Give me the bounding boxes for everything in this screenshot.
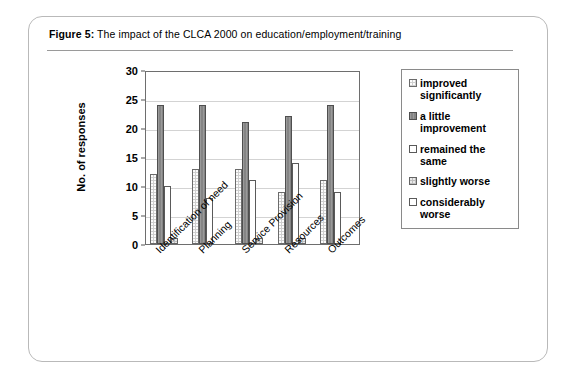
y-tick-label: 25 [126, 95, 138, 106]
x-axis-category-labels: Identification of needPlanningService Pr… [145, 247, 360, 337]
bar [150, 174, 157, 244]
y-tick-label: 15 [126, 153, 138, 164]
y-tick-mark [141, 216, 145, 217]
legend-item: improved significantly [409, 77, 512, 102]
legend-swatch-icon [409, 145, 417, 153]
y-tick-mark [141, 245, 145, 246]
legend-label: a little improvement [420, 110, 512, 135]
bar [235, 169, 242, 244]
y-tick-label: 5 [132, 211, 138, 222]
legend-item: slightly worse [409, 175, 512, 187]
caption-divider [47, 50, 513, 51]
y-tick-mark [141, 187, 145, 188]
legend-label: slightly worse [420, 175, 490, 187]
legend-item: considerably worse [409, 196, 512, 221]
bar-groups [146, 72, 359, 244]
legend-item: a little improvement [409, 110, 512, 135]
legend-swatch-icon [409, 177, 417, 185]
y-tick-label: 10 [126, 182, 138, 193]
bar-chart: No. of responses 051015202530 Identifica… [29, 55, 549, 355]
bar [327, 105, 334, 244]
bar [285, 116, 292, 244]
legend-label: considerably worse [420, 196, 512, 221]
bar [242, 122, 249, 244]
y-tick-mark [141, 100, 145, 101]
legend-swatch-icon [409, 198, 417, 206]
figure-label: Figure 5: [49, 28, 94, 40]
chart-legend: improved significantlya little improveme… [401, 69, 519, 229]
y-tick-mark [141, 129, 145, 130]
legend-label: improved significantly [420, 77, 512, 102]
bar [157, 105, 164, 244]
legend-item: remained the same [409, 143, 512, 168]
legend-label: remained the same [420, 143, 512, 168]
y-tick-label: 20 [126, 124, 138, 135]
y-tick-label: 0 [132, 240, 138, 251]
figure-card: Figure 5: The impact of the CLCA 2000 on… [28, 16, 548, 362]
y-axis-title: No. of responses [75, 87, 87, 207]
y-axis-tick-labels: 051015202530 [114, 71, 138, 245]
figure-caption-text: The impact of the CLCA 2000 on education… [97, 28, 401, 40]
y-tick-mark [141, 158, 145, 159]
y-tick-mark [141, 71, 145, 72]
y-tick-label: 30 [126, 66, 138, 77]
legend-swatch-icon [409, 112, 417, 120]
legend-swatch-icon [409, 79, 417, 87]
figure-caption: Figure 5: The impact of the CLCA 2000 on… [49, 28, 401, 40]
bar [320, 180, 327, 244]
bar [199, 105, 206, 244]
plot-area [145, 71, 360, 245]
